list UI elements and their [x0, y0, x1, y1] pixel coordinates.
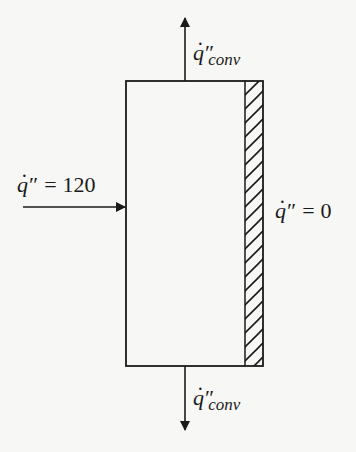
double-prime: ″ — [29, 172, 38, 197]
subscript: conv — [208, 395, 240, 414]
bottom-flux-label: ·q″conv — [193, 387, 240, 409]
insulated-wall — [245, 81, 263, 366]
right-flux-label: ·q″=0 — [275, 200, 332, 222]
q-symbol: ·q — [17, 174, 28, 196]
q-symbol: ·q — [193, 387, 204, 409]
top-flux-label: ·q″conv — [193, 42, 240, 64]
subscript: conv — [208, 50, 240, 69]
q-symbol: ·q — [193, 42, 204, 64]
double-prime: ″ — [287, 198, 296, 223]
flux-value: 120 — [63, 172, 96, 197]
slab-diagram — [0, 0, 356, 452]
q-symbol: ·q — [275, 200, 286, 222]
diagram-canvas: ·q″conv ·q″conv ·q″=120 ·q″=0 — [0, 0, 356, 452]
flux-value: 0 — [321, 198, 332, 223]
slab — [126, 81, 263, 366]
equals-sign: = — [44, 172, 56, 197]
equals-sign: = — [302, 198, 314, 223]
left-flux-label: ·q″=120 — [17, 174, 96, 196]
